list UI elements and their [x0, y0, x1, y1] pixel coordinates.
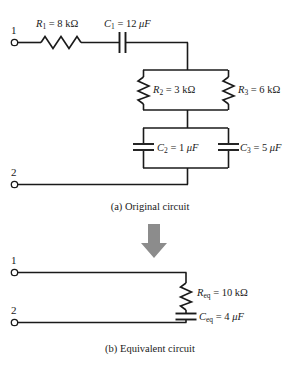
c1-unit: μF: [136, 18, 151, 29]
r1-value: 8: [55, 18, 63, 29]
ceq-label: Ceq = 4 μF: [199, 311, 244, 324]
r1-unit: kΩ: [63, 18, 79, 29]
c2-value: 1: [176, 142, 184, 153]
ceq-unit: μF: [230, 311, 245, 322]
terminal-2-node-bottom[interactable]: [11, 319, 17, 325]
transition-arrow-group: [141, 224, 167, 258]
req-label: Req = 10 kΩ: [196, 287, 248, 300]
terminal-2-node-top[interactable]: [11, 181, 17, 187]
c3-label: C3 = 5 μF: [240, 142, 282, 155]
c2-label: C2 = 1 μF: [157, 142, 199, 155]
caption-original-circuit: (a) Original circuit: [111, 201, 190, 213]
c3-value: 5: [259, 142, 267, 153]
terminal-1-label-bottom: 1: [11, 254, 17, 266]
c1-equals: =: [115, 18, 124, 29]
r1-equals: =: [46, 18, 55, 29]
c2-equals: =: [168, 142, 177, 153]
c1-value: 12: [123, 18, 136, 29]
r3-label: R3 = 6 kΩ: [237, 84, 280, 97]
r3-unit: kΩ: [265, 84, 281, 95]
r2-label: R2 = 3 kΩ: [152, 84, 195, 97]
c3-equals: =: [251, 142, 260, 153]
c3-unit: μF: [267, 142, 282, 153]
r3-equals: =: [248, 84, 257, 95]
r1-resistor-symbol: [41, 37, 81, 49]
c2-unit: μF: [184, 142, 199, 153]
c1-label: C1 = 12 μF: [104, 18, 151, 31]
caption-equivalent-circuit: (b) Equivalent circuit: [105, 343, 195, 355]
req-unit: kΩ: [232, 287, 248, 298]
terminal-1-node-bottom[interactable]: [11, 269, 17, 275]
r1-label: R1 = 8 kΩ: [35, 18, 78, 31]
r2-unit: kΩ: [180, 84, 196, 95]
r2-resistor-symbol: [138, 77, 149, 104]
terminal-1-node-top[interactable]: [11, 39, 17, 45]
terminal-1-label-top: 1: [11, 24, 17, 36]
r3-value: 6: [257, 84, 265, 95]
req-value: 10: [219, 287, 232, 298]
ceq-equals: =: [213, 311, 222, 322]
r3-resistor-symbol: [223, 77, 234, 104]
terminal-2-label-top: 2: [11, 166, 17, 178]
original-circuit-group: 1 R1 = 8 kΩ C1 = 12 μF: [11, 18, 282, 213]
r2-value: 3: [172, 84, 180, 95]
equivalent-circuit-group: 1 Req = 10 kΩ Ceq = 4 μF 2: [11, 254, 248, 355]
req-resistor-symbol: [181, 283, 192, 310]
down-arrow-icon: [141, 224, 167, 258]
terminal-2-label-bottom: 2: [11, 304, 17, 316]
circuit-diagram-canvas: 1 R1 = 8 kΩ C1 = 12 μF: [0, 0, 301, 368]
req-equals: =: [211, 287, 220, 298]
circuit-figure: 1 R1 = 8 kΩ C1 = 12 μF: [0, 0, 301, 368]
r2-equals: =: [163, 84, 172, 95]
